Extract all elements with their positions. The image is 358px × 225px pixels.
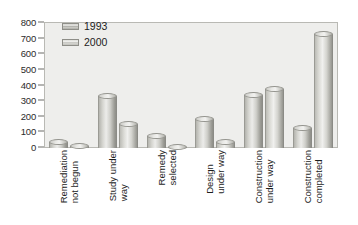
legend-swatch-1993 (62, 23, 79, 30)
bar-body (293, 128, 312, 148)
y-axis-tick-mark-200 (38, 115, 44, 116)
bar-2000-5 (265, 86, 284, 149)
bar-body (98, 96, 117, 148)
y-axis-tick-mark-300 (38, 100, 44, 101)
x-axis-label-text: Constructioncompleted (302, 150, 323, 203)
y-axis: 0100200300400500600700800 (0, 14, 44, 156)
y-axis-tick-label-500: 500 (21, 63, 36, 74)
bar-group (240, 23, 289, 148)
y-axis-tick-mark-800 (38, 22, 44, 23)
legend: 1993 2000 (62, 20, 132, 52)
x-axis-label-text: Remediationnot begun (59, 150, 80, 203)
bar-2000-2 (119, 121, 138, 148)
bar-group (288, 23, 337, 148)
legend-swatch-2000 (62, 39, 79, 46)
bar-cap (49, 139, 68, 145)
legend-label-2000: 2000 (84, 37, 107, 48)
x-axis-label-text: Remedyselected (156, 150, 177, 185)
y-axis-tick-label-600: 600 (21, 48, 36, 59)
bar-2000-4 (216, 139, 235, 148)
bar-body (265, 89, 284, 149)
legend-item-1993: 1993 (62, 20, 132, 33)
y-axis-tick-mark-400 (38, 84, 44, 85)
y-axis-tick-mark-700 (38, 37, 44, 38)
bar-2000-1 (70, 143, 89, 148)
chart-container: 0100200300400500600700800 1993 2000 Reme… (0, 0, 358, 225)
legend-label-1993: 1993 (84, 21, 107, 32)
y-axis-tick-label-300: 300 (21, 95, 36, 106)
y-axis-tick-label-700: 700 (21, 32, 36, 43)
x-axis-labels: Remediationnot begunStudy underwayRemedy… (45, 150, 337, 225)
bar-body (195, 119, 214, 148)
bar-body (119, 124, 138, 148)
bar-1993-1 (49, 139, 68, 148)
y-axis-tick-mark-500 (38, 68, 44, 69)
y-axis-tick-label-200: 200 (21, 110, 36, 121)
bar-2000-3 (168, 144, 187, 148)
bar-body (314, 34, 333, 148)
bar-1993-3 (147, 133, 166, 148)
bar-group (142, 23, 191, 148)
y-axis-tick-label-100: 100 (21, 126, 36, 137)
bar-cap (244, 92, 263, 98)
x-axis-label-text: Constructionunder way (254, 150, 275, 203)
y-axis-tick-mark-0 (38, 147, 44, 148)
bar-body (244, 95, 263, 148)
bar-1993-2 (98, 93, 117, 148)
bar-cap (70, 143, 89, 149)
x-axis-label-text: Study underway (108, 150, 129, 201)
bar-cap (265, 86, 284, 92)
x-axis-label-text: Designunder way (205, 150, 226, 194)
bar-group (191, 23, 240, 148)
bar-1993-6 (293, 125, 312, 148)
bar-1993-5 (244, 92, 263, 148)
y-axis-tick-label-800: 800 (21, 17, 36, 28)
x-axis-label-6: Constructioncompleted (278, 150, 348, 220)
bar-2000-6 (314, 31, 333, 148)
y-axis-tick-mark-100 (38, 131, 44, 132)
bar-cap (314, 31, 333, 37)
bar-1993-4 (195, 116, 214, 148)
legend-item-2000: 2000 (62, 36, 132, 49)
y-axis-tick-mark-600 (38, 53, 44, 54)
y-axis-tick-label-400: 400 (21, 79, 36, 90)
